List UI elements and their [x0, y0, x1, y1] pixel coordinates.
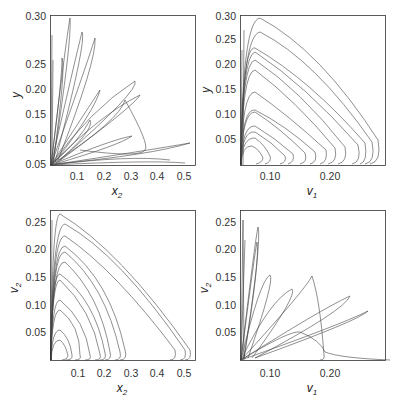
y-axis-label: y — [200, 86, 213, 94]
trajectories — [51, 18, 190, 165]
x-ticks: 0.10 0.20 — [260, 170, 341, 182]
trajectories — [51, 214, 190, 360]
svg-text:0.15: 0.15 — [216, 83, 237, 95]
plot-frame — [51, 211, 196, 361]
svg-text:0.10: 0.10 — [26, 133, 47, 145]
svg-text:0.05: 0.05 — [216, 326, 237, 338]
svg-text:0.2: 0.2 — [97, 170, 112, 182]
svg-text:0.20: 0.20 — [26, 243, 47, 255]
svg-text:0.10: 0.10 — [260, 170, 281, 182]
plot-v2-vs-v1: 0.05 0.10 0.15 0.20 0.25 0.10 0.20 v1 v2 — [200, 200, 400, 403]
panel-v2-vs-v1: 0.05 0.10 0.15 0.20 0.25 0.10 0.20 v1 v2 — [200, 200, 400, 401]
svg-text:0.05: 0.05 — [216, 133, 237, 145]
y-ticks: 0.05 0.10 0.15 0.20 0.25 — [26, 216, 47, 338]
svg-text:0.15: 0.15 — [26, 271, 47, 283]
svg-text:0.10: 0.10 — [260, 367, 281, 379]
svg-text:0.4: 0.4 — [150, 367, 165, 379]
y-axis-label: y — [9, 91, 23, 99]
x-axis-label: x2 — [116, 381, 128, 397]
svg-text:0.15: 0.15 — [216, 271, 237, 283]
trajectories — [241, 18, 379, 165]
svg-text:0.20: 0.20 — [26, 83, 47, 95]
svg-text:0.3: 0.3 — [124, 367, 139, 379]
plot-frame — [51, 16, 196, 166]
y-axis-label: v2 — [7, 282, 23, 293]
x-ticks: 0.10 0.20 — [260, 367, 341, 379]
svg-text:0.25: 0.25 — [26, 58, 47, 70]
svg-text:0.25: 0.25 — [216, 216, 237, 228]
svg-text:0.5: 0.5 — [177, 170, 192, 182]
x-axis-label: x2 — [111, 184, 123, 200]
svg-text:0.30: 0.30 — [216, 10, 237, 22]
panel-v2-vs-x2: 0.05 0.10 0.15 0.20 0.25 0.1 0.2 0.3 0.4… — [0, 200, 200, 401]
svg-text:0.20: 0.20 — [216, 58, 237, 70]
svg-text:0.25: 0.25 — [26, 216, 47, 228]
svg-text:0.15: 0.15 — [26, 108, 47, 120]
x-axis-label: v1 — [307, 381, 317, 397]
svg-text:0.20: 0.20 — [320, 367, 341, 379]
svg-text:0.05: 0.05 — [26, 326, 47, 338]
panel-y-vs-v1: 0.05 0.10 0.15 0.20 0.25 0.30 0.10 0.20 … — [200, 0, 400, 201]
svg-text:0.25: 0.25 — [216, 33, 237, 45]
svg-text:0.10: 0.10 — [26, 299, 47, 311]
trajectories — [241, 220, 390, 360]
plot-v2-vs-x2: 0.05 0.10 0.15 0.20 0.25 0.1 0.2 0.3 0.4… — [0, 200, 200, 403]
y-axis-label: v2 — [200, 282, 213, 293]
x-ticks: 0.1 0.2 0.3 0.4 0.5 — [71, 367, 192, 379]
svg-text:0.2: 0.2 — [97, 367, 112, 379]
y-ticks: 0.05 0.10 0.15 0.20 0.25 0.30 — [216, 10, 237, 145]
plot-frame — [241, 211, 386, 361]
svg-text:0.05: 0.05 — [26, 158, 47, 170]
svg-text:0.20: 0.20 — [320, 170, 341, 182]
svg-text:0.10: 0.10 — [216, 108, 237, 120]
svg-text:0.10: 0.10 — [216, 299, 237, 311]
y-ticks: 0.05 0.10 0.15 0.20 0.25 0.30 — [26, 10, 47, 170]
plot-y-vs-x2: 0.05 0.10 0.15 0.20 0.25 0.30 0.1 0.2 0.… — [0, 0, 200, 201]
svg-text:0.5: 0.5 — [177, 367, 192, 379]
x-axis-label: v1 — [307, 184, 317, 200]
svg-text:0.3: 0.3 — [124, 170, 139, 182]
panel-y-vs-x2: 0.05 0.10 0.15 0.20 0.25 0.30 0.1 0.2 0.… — [0, 0, 200, 201]
svg-text:0.4: 0.4 — [150, 170, 165, 182]
y-ticks: 0.05 0.10 0.15 0.20 0.25 — [216, 216, 237, 338]
svg-text:0.1: 0.1 — [71, 367, 86, 379]
svg-text:0.1: 0.1 — [70, 170, 85, 182]
plot-y-vs-v1: 0.05 0.10 0.15 0.20 0.25 0.30 0.10 0.20 … — [200, 0, 400, 201]
svg-text:0.30: 0.30 — [26, 10, 47, 22]
svg-text:0.20: 0.20 — [216, 243, 237, 255]
x-ticks: 0.1 0.2 0.3 0.4 0.5 — [70, 170, 192, 182]
